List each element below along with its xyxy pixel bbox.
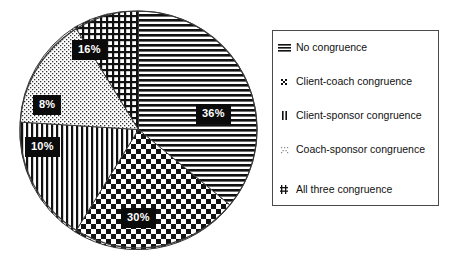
- pie-chart-figure: 36% 30% 10% 8% 16% No congruence Client-…: [0, 0, 451, 258]
- legend-list: No congruence Client-coach congruence Cl…: [273, 31, 438, 205]
- pie-label-client-sponsor-congruence: 10%: [25, 137, 60, 157]
- legend-label: All three congruence: [296, 184, 392, 195]
- checkerboard-swatch-icon: [278, 76, 291, 87]
- horizontal-lines-swatch-icon: [278, 42, 291, 53]
- legend-item-client-sponsor-congruence[interactable]: Client-sponsor congruence: [278, 107, 434, 123]
- fine-dots-swatch-icon: [278, 144, 291, 155]
- pie-label-client-coach-congruence: 30%: [121, 208, 156, 228]
- crosshatch-grid-swatch-icon: [278, 184, 291, 195]
- legend-box: No congruence Client-coach congruence Cl…: [272, 30, 439, 206]
- pie-label-coach-sponsor-congruence: 8%: [33, 95, 61, 115]
- legend-item-all-three-congruence[interactable]: All three congruence: [278, 181, 434, 197]
- legend-label: Client-coach congruence: [296, 76, 412, 87]
- legend-item-client-coach-congruence[interactable]: Client-coach congruence: [278, 73, 434, 89]
- legend-item-no-congruence[interactable]: No congruence: [278, 39, 434, 55]
- pie-label-no-congruence: 36%: [196, 104, 231, 124]
- legend-label: Client-sponsor congruence: [296, 110, 422, 121]
- pie-label-all-three-congruence: 16%: [72, 40, 107, 60]
- pie-chart-area: 36% 30% 10% 8% 16%: [16, 9, 261, 250]
- legend-label: No congruence: [296, 42, 367, 53]
- legend-item-coach-sponsor-congruence[interactable]: Coach-sponsor congruence: [278, 141, 434, 157]
- vertical-lines-swatch-icon: [278, 110, 291, 121]
- legend-label: Coach-sponsor congruence: [296, 144, 425, 155]
